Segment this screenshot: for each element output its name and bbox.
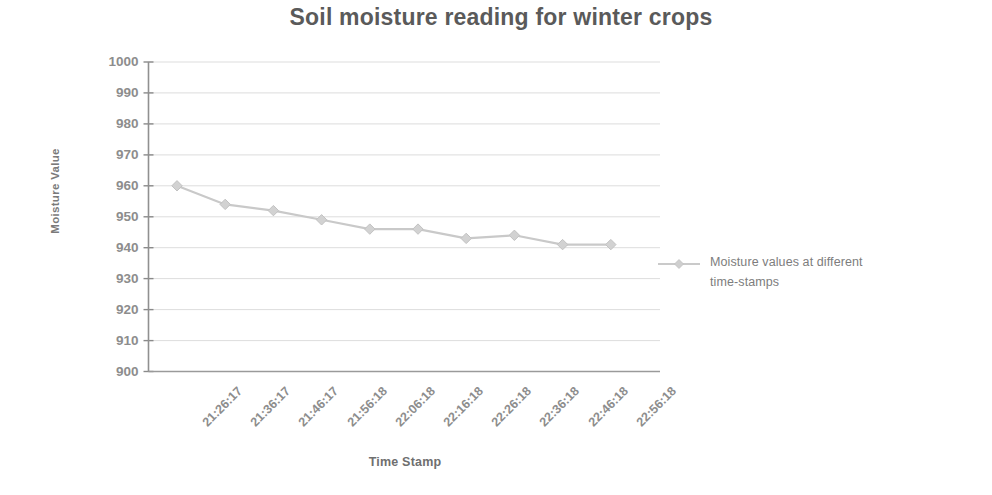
series-line: [177, 186, 611, 245]
data-point-marker: [220, 199, 230, 209]
data-point-marker: [606, 239, 616, 249]
legend-label-line2: time-stamps: [710, 275, 779, 289]
data-point-marker: [413, 224, 423, 234]
data-point-marker: [268, 205, 278, 215]
data-point-marker: [557, 239, 567, 249]
legend-marker-sample: [658, 258, 700, 270]
y-axis-tick-label: 940: [79, 241, 139, 255]
data-point-marker: [461, 233, 471, 243]
data-point-marker: [365, 224, 375, 234]
data-point-marker: [509, 230, 519, 240]
y-axis-tick-label: 1000: [79, 55, 139, 69]
y-axis-tick-label: 930: [79, 272, 139, 286]
data-point-marker: [172, 181, 182, 191]
chart-container: Soil moisture reading for winter crops M…: [0, 0, 992, 495]
y-axis-tick-label: 970: [79, 148, 139, 162]
legend-label-line1: Moisture values at different: [710, 255, 863, 269]
y-axis-tick-label: 950: [79, 210, 139, 224]
legend-label: Moisture values at different time-stamps: [710, 252, 925, 292]
y-axis-tick-label: 920: [79, 303, 139, 317]
y-axis-tick-label: 910: [79, 334, 139, 348]
y-axis-tick-label: 960: [79, 179, 139, 193]
series-markers: [172, 181, 616, 250]
chart-legend: Moisture values at different time-stamps: [658, 252, 958, 292]
y-axis-tick-label: 900: [79, 365, 139, 379]
y-axis-tick-label: 990: [79, 86, 139, 100]
data-point-marker: [316, 215, 326, 225]
y-axis-tick-label: 980: [79, 117, 139, 131]
